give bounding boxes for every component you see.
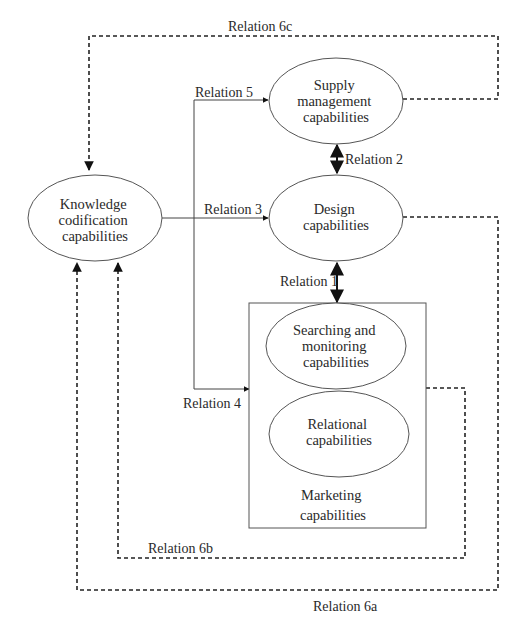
relation-6c-label: Relation 6c [228,19,292,34]
relation-4-label: Relation 4 [183,396,241,411]
searching-monitoring-label: Searching and monitoring capabilities [293,322,379,370]
relation-6b-label: Relation 6b [148,541,213,556]
relation-3-label: Relation 3 [204,202,262,217]
relation-5-label: Relation 5 [195,85,253,100]
relation-4-connector [194,218,249,389]
relation-5-connector [194,100,268,218]
relation-1-label: Relation 1 [280,274,338,289]
knowledge-codification-label: Knowledge codification capabilities [59,196,132,244]
capabilities-relations-diagram: Relation 6c Relation 6a Relation 6b Rela… [0,0,532,628]
relation-6a-label: Relation 6a [313,599,378,614]
relation-2-label: Relation 2 [345,152,403,167]
relational-label: Relational capabilities [306,416,372,448]
